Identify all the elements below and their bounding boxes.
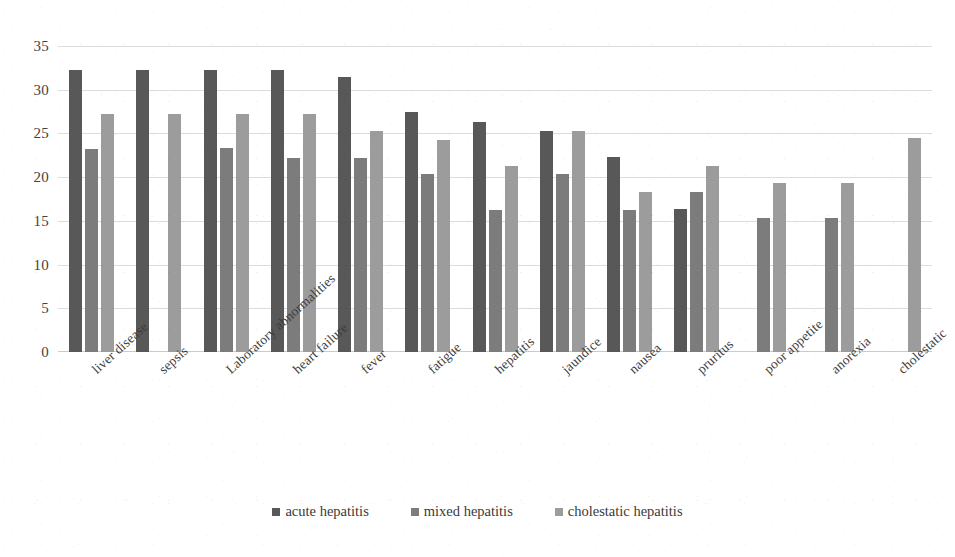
y-tick-label: 30	[33, 81, 49, 98]
bar	[489, 210, 502, 353]
x-label-cell: poor appetite	[730, 356, 797, 466]
bar	[623, 210, 636, 353]
bar	[136, 70, 149, 352]
x-axis-category-labels: liver diseasesepsisLaboratory abnormalit…	[58, 356, 932, 466]
legend-item[interactable]: cholestatic hepatitis	[555, 503, 683, 520]
x-label-cell: jaundice	[529, 356, 596, 466]
x-label-cell: heart failure	[260, 356, 327, 466]
bar	[204, 70, 217, 352]
legend-label: acute hepatitis	[285, 503, 368, 520]
bar	[841, 183, 854, 352]
bar-group	[730, 46, 797, 352]
bar-group	[663, 46, 730, 352]
bar	[303, 114, 316, 352]
bar	[437, 140, 450, 352]
bar	[908, 138, 921, 352]
bar	[69, 70, 82, 352]
bar-group	[327, 46, 394, 352]
bar	[706, 166, 719, 352]
x-label-cell: fever	[327, 356, 394, 466]
legend-swatch-icon	[555, 508, 563, 516]
bar-chart: 05101520253035 liver diseasesepsisLabora…	[0, 0, 955, 557]
legend-label: mixed hepatitis	[424, 503, 513, 520]
bar	[572, 131, 585, 352]
bar	[354, 158, 367, 352]
x-label-cell: nausea	[596, 356, 663, 466]
bar	[607, 157, 620, 352]
bar	[674, 209, 687, 352]
bar	[690, 192, 703, 352]
chart-legend: acute hepatitismixed hepatitischolestati…	[0, 503, 955, 520]
y-tick-label: 15	[33, 212, 49, 229]
bar-group	[596, 46, 663, 352]
x-label-cell: Laboratory abnormalities	[192, 356, 259, 466]
bar-group	[865, 46, 932, 352]
x-label-cell: cholestatic	[865, 356, 932, 466]
bar	[505, 166, 518, 352]
y-tick-label: 5	[41, 300, 49, 317]
bar	[773, 183, 786, 352]
y-tick-label: 25	[33, 125, 49, 142]
bar	[168, 114, 181, 352]
bar	[85, 149, 98, 352]
bar	[825, 218, 838, 352]
legend-item[interactable]: mixed hepatitis	[411, 503, 513, 520]
bar-group	[58, 46, 125, 352]
bar	[757, 218, 770, 352]
y-tick-label: 20	[33, 169, 49, 186]
bar	[405, 112, 418, 352]
bar	[421, 174, 434, 352]
x-label-cell: sepsis	[125, 356, 192, 466]
bar	[473, 122, 486, 352]
y-tick-label: 10	[33, 256, 49, 273]
bar	[236, 114, 249, 352]
plot-area: 05101520253035	[58, 46, 932, 352]
y-tick-label: 35	[33, 38, 49, 55]
y-tick-label: 0	[41, 344, 49, 361]
bar-group	[529, 46, 596, 352]
legend-swatch-icon	[411, 508, 419, 516]
bar	[540, 131, 553, 352]
legend-label: cholestatic hepatitis	[568, 503, 683, 520]
bar	[370, 131, 383, 352]
bar	[101, 114, 114, 352]
bar-group	[192, 46, 259, 352]
bar-group	[461, 46, 528, 352]
legend-swatch-icon	[272, 508, 280, 516]
bar-groups	[58, 46, 932, 352]
x-label-cell: fatigue	[394, 356, 461, 466]
legend-item[interactable]: acute hepatitis	[272, 503, 368, 520]
bar	[220, 148, 233, 352]
bar-group	[798, 46, 865, 352]
bar	[338, 77, 351, 352]
bar	[556, 174, 569, 352]
x-label-cell: liver disease	[58, 356, 125, 466]
bar	[271, 70, 284, 352]
x-label-cell: anorexia	[798, 356, 865, 466]
bar-group	[394, 46, 461, 352]
x-label-cell: hepatitis	[461, 356, 528, 466]
x-label-cell: pruritus	[663, 356, 730, 466]
bar-group	[125, 46, 192, 352]
bar	[639, 192, 652, 352]
